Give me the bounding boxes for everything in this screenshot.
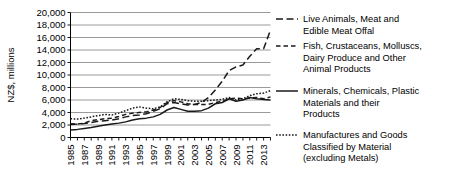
legend-label-1: Live Animals, Meat and [303,14,399,24]
x-tick-label: 2001 [175,145,186,166]
legend-label-3: Products [303,109,340,119]
legend-label-2: Animal Products [303,64,371,74]
legend-label-4: Manufactures and Goods [303,130,408,140]
y-tick-label: 0 [60,132,65,143]
x-tick-label: 1989 [93,145,104,166]
legend-label-2: Fish, Crustaceans, Molluscs, [303,41,422,51]
y-tick-label: 14,000 [36,44,65,55]
x-tick-label: 1993 [120,145,131,166]
y-tick-label: 10,000 [36,69,65,80]
y-tick-label: 16,000 [36,32,65,43]
x-tick-label: 2007 [217,145,228,166]
x-tick-label: 1991 [106,145,117,166]
line-chart: 02,0004,0006,0008,00010,00012,00014,0001… [0,0,460,182]
x-tick-label: 1995 [134,145,145,166]
legend-entry-4: Manufactures and GoodsClassified by Mate… [276,130,408,163]
x-tick-label: 2011 [244,145,255,165]
x-tick-label: 2005 [203,145,214,166]
series-line-4 [71,91,271,119]
x-tick-label: 1999 [162,145,173,166]
x-tick-label: 2013 [258,145,269,166]
x-tick-label: 2009 [231,145,242,166]
legend-entry-1: Live Animals, Meat andEdible Meat Offal [276,14,399,35]
series-line-1 [71,30,271,124]
legend-label-3: Materials and their [303,98,379,108]
y-tick-label: 12,000 [36,57,65,68]
legend-label-4: (excluding Metals) [303,153,378,163]
chart-canvas: 02,0004,0006,0008,00010,00012,00014,0001… [0,0,460,182]
y-tick-label: 8,000 [42,82,66,93]
legend-entry-3: Minerals, Chemicals, PlasticMaterials an… [276,86,420,119]
y-tick-label: 20,000 [36,7,65,18]
legend-entry-2: Fish, Crustaceans, Molluscs,Dairy Produc… [276,41,422,74]
legend-label-2: Dairy Produce and Other [303,53,406,63]
x-tick-label: 2003 [189,145,200,166]
x-tick-label: 1987 [79,145,90,166]
y-axis-title: NZ$, millions [5,47,16,102]
x-tick-label: 1997 [148,145,159,166]
y-tick-label: 2,000 [42,119,66,130]
legend-label-1: Edible Meat Offal [303,26,374,36]
legend-label-3: Minerals, Chemicals, Plastic [303,86,420,96]
legend-label-4: Classified by Material [303,142,391,152]
x-tick-label: 1985 [65,145,76,166]
y-tick-label: 6,000 [42,94,66,105]
y-tick-label: 18,000 [36,19,65,30]
y-tick-label: 4,000 [42,107,66,118]
